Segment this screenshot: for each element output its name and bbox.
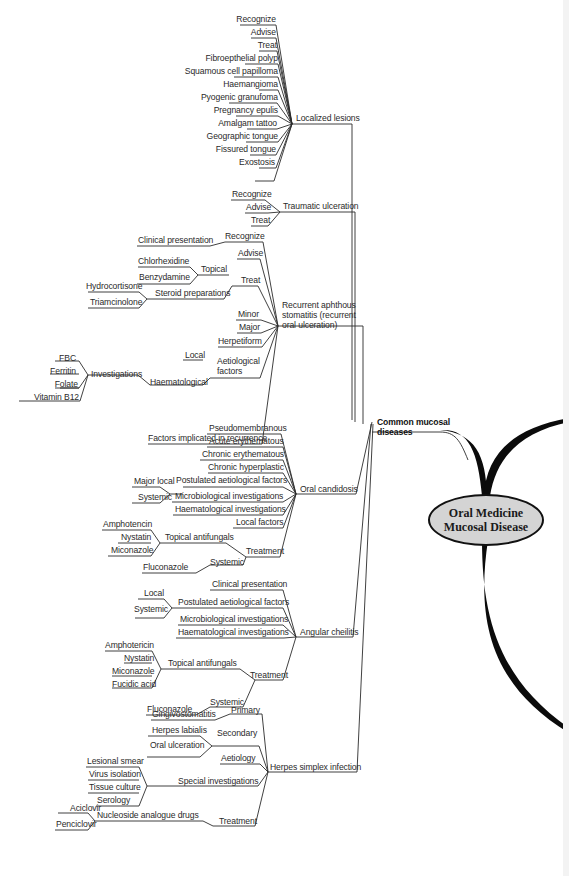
- branch-traumatic-ulceration[interactable]: Traumatic ulceration: [283, 201, 359, 211]
- node-traumatic-recognize[interactable]: Recognize: [232, 189, 272, 199]
- ras-title-line2: stomatitis (recurrent: [282, 310, 356, 320]
- node-ras-treat[interactable]: Treat: [241, 275, 260, 285]
- node-ras-recognize[interactable]: Recognize: [225, 231, 265, 241]
- node-angular-treatment[interactable]: Treatment: [250, 670, 288, 680]
- node-candidosis-microbiological[interactable]: Microbiological investigations: [175, 491, 283, 501]
- node-ras-haematological[interactable]: Haematological: [150, 377, 208, 387]
- node-herpes-primary[interactable]: Primary: [231, 705, 260, 715]
- branch-localized-lesions[interactable]: Localized lesions: [296, 113, 360, 123]
- node-virus-isolation[interactable]: Virus isolation: [89, 769, 141, 779]
- node-candidosis-topical-antifungals[interactable]: Topical antifungals: [165, 532, 234, 542]
- node-candidosis-miconazole[interactable]: Miconazole: [111, 545, 153, 555]
- node-candidosis-postulated-factors[interactable]: Postulated aetiological factors: [176, 475, 287, 485]
- node-traumatic-advise[interactable]: Advise: [246, 202, 271, 212]
- aetio-line2: factors: [217, 366, 260, 376]
- node-nucleoside-analogue-drugs[interactable]: Nucleoside analogue drugs: [97, 810, 199, 820]
- node-herpes-aetiology[interactable]: Aetiology: [221, 753, 255, 763]
- node-fbc[interactable]: FBC: [59, 353, 76, 363]
- branch-herpes-simplex-infection[interactable]: Herpes simplex infection: [270, 762, 361, 772]
- node-tissue-culture[interactable]: Tissue culture: [89, 782, 141, 792]
- node-angular-microbiological[interactable]: Microbiological investigations: [180, 614, 288, 624]
- node-pseudomembranous[interactable]: Pseudomembranous: [209, 423, 287, 433]
- node-chronic-hyperplastic[interactable]: Chronic hyperplastic: [208, 462, 284, 472]
- central-topic[interactable]: Oral Medicine Mucosal Disease: [428, 494, 544, 546]
- node-herpes-secondary[interactable]: Secondary: [217, 728, 257, 738]
- node-candidosis-systemic[interactable]: Systemic: [210, 557, 244, 567]
- central-topic-line2: Mucosal Disease: [444, 520, 528, 534]
- node-angular-local[interactable]: Local: [144, 588, 164, 598]
- node-angular-systemic-factor[interactable]: Systemic: [134, 604, 168, 614]
- node-traumatic-treat[interactable]: Treat: [251, 215, 270, 225]
- node-fibroepithelial-polyp[interactable]: Fibroepthelial polyp: [205, 53, 278, 63]
- node-oral-ulceration[interactable]: Oral ulceration: [150, 740, 204, 750]
- node-ras-clinical-presentation[interactable]: Clinical presentation: [138, 235, 213, 245]
- node-haemangioma[interactable]: Haemangioma: [223, 79, 278, 89]
- node-aciclovir[interactable]: Aciclovir: [70, 803, 101, 813]
- node-exostosis[interactable]: Exostosis: [239, 157, 275, 167]
- node-ras-advise[interactable]: Advise: [238, 248, 263, 258]
- node-angular-topical-antifungals[interactable]: Topical antifungals: [168, 658, 237, 668]
- node-candidosis-fluconazole[interactable]: Fluconazole: [143, 562, 188, 572]
- node-angular-postulated-factors[interactable]: Postulated aetiological factors: [178, 597, 289, 607]
- node-herpes-labialis[interactable]: Herpes labialis: [152, 725, 207, 735]
- node-amphotencin[interactable]: Amphotencin: [103, 519, 152, 529]
- node-ras-minor[interactable]: Minor: [238, 309, 259, 319]
- node-chronic-erythematous[interactable]: Chronic erythematous: [202, 449, 284, 459]
- node-benzydamine[interactable]: Benzydamine: [139, 272, 190, 282]
- node-fissured-tongue[interactable]: Fissured tongue: [216, 144, 276, 154]
- node-candidosis-local-factors[interactable]: Local factors: [236, 517, 283, 527]
- node-geographic-tongue[interactable]: Geographic tongue: [207, 131, 278, 141]
- node-pregnancy-epulis[interactable]: Pregnancy epulis: [214, 105, 278, 115]
- node-vitamin-b12[interactable]: Vitamin B12: [34, 392, 79, 402]
- node-ras-major[interactable]: Major: [239, 322, 260, 332]
- node-ras-local[interactable]: Local: [185, 350, 205, 360]
- aetio-line1: Aetiological: [217, 356, 260, 366]
- node-hydrocortisone[interactable]: Hydrocortisone: [86, 281, 142, 291]
- hub-line2: diseases: [377, 427, 450, 437]
- node-lesional-smear[interactable]: Lesional smear: [87, 756, 144, 766]
- node-amphotericin[interactable]: Amphotericin: [105, 640, 154, 650]
- node-penciclovir[interactable]: Penciclovir: [56, 819, 96, 829]
- node-candidosis-haematological[interactable]: Haematological investigations: [175, 504, 286, 514]
- node-candidosis-systemic-factor[interactable]: Systemic: [138, 492, 172, 502]
- node-squamous-cell-papilloma[interactable]: Squamous cell papilloma: [185, 66, 278, 76]
- node-ferritin[interactable]: Ferritin: [50, 366, 76, 376]
- node-pyogenic-granuloma[interactable]: Pyogenic granufoma: [201, 92, 278, 102]
- node-localized-advise[interactable]: Advise: [251, 27, 276, 37]
- node-gingivostomatitis[interactable]: Gingivostomatitis: [152, 709, 216, 719]
- ras-title-line3: oral ulceration): [282, 320, 356, 330]
- branch-recurrent-aphthous-stomatitis[interactable]: Recurrent aphthous stomatitis (recurrent…: [282, 300, 356, 330]
- node-major-local[interactable]: Major local: [134, 476, 174, 486]
- ras-title-line1: Recurrent aphthous: [282, 300, 356, 310]
- node-steroid-preparations[interactable]: Steroid preparations: [155, 288, 230, 298]
- node-fucidic-acid[interactable]: Fucidic acid: [112, 679, 156, 689]
- branch-angular-cheilitis[interactable]: Angular cheilitis: [300, 627, 359, 637]
- node-angular-miconazole[interactable]: Miconazole: [112, 666, 154, 676]
- node-ras-topical[interactable]: Topical: [201, 264, 227, 274]
- node-ras-investigations[interactable]: Investigations: [91, 369, 142, 379]
- hub-node-common-mucosal-diseases[interactable]: Common mucosal diseases: [377, 417, 450, 437]
- page-edge-shadow: [563, 0, 569, 876]
- node-acute-erythematous[interactable]: Acute erythematous: [209, 436, 284, 446]
- node-triamcinolone[interactable]: Triamcinolone: [90, 297, 142, 307]
- node-angular-nystatin[interactable]: Nystatin: [124, 653, 154, 663]
- connector-lines: [0, 0, 569, 876]
- node-candidosis-nystatin[interactable]: Nystatin: [121, 532, 151, 542]
- hub-line1: Common mucosal: [377, 417, 450, 427]
- node-localized-recognize[interactable]: Recognize: [236, 14, 276, 24]
- branch-oral-candidosis[interactable]: Oral candidosis: [300, 484, 358, 494]
- node-candidosis-treatment[interactable]: Treatment: [246, 546, 284, 556]
- node-special-investigations[interactable]: Special investigations: [178, 776, 258, 786]
- node-serology[interactable]: Serology: [97, 795, 130, 805]
- node-ras-herpetiform[interactable]: Herpetiform: [218, 336, 262, 346]
- node-angular-haematological[interactable]: Haematological investigations: [178, 627, 289, 637]
- mind-map-canvas: Oral Medicine Mucosal Disease Common muc…: [0, 0, 569, 876]
- node-angular-clinical-presentation[interactable]: Clinical presentation: [212, 579, 287, 589]
- node-herpes-treatment[interactable]: Treatment: [219, 816, 257, 826]
- central-topic-line1: Oral Medicine: [449, 506, 523, 520]
- node-aetiological-factors[interactable]: Aetiological factors: [217, 356, 260, 376]
- node-localized-treat[interactable]: Treat: [258, 40, 277, 50]
- node-folate[interactable]: Folate: [55, 379, 78, 389]
- node-amalgam-tattoo[interactable]: Amalgam tattoo: [218, 118, 277, 128]
- node-chlorhexidine[interactable]: Chlorhexidine: [138, 256, 189, 266]
